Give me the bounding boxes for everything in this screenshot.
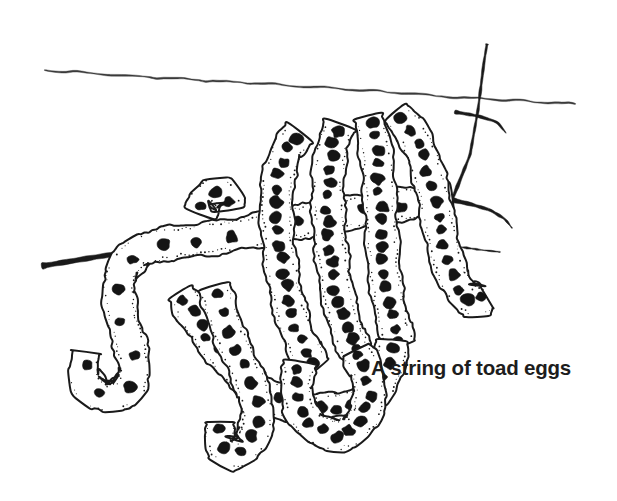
- stipple-dot: [380, 410, 381, 411]
- stipple-dot: [312, 442, 314, 444]
- stipple-dot: [276, 384, 277, 385]
- stipple-dot: [232, 433, 233, 434]
- stipple-dot: [377, 308, 379, 310]
- stipple-dot: [328, 396, 329, 397]
- stipple-dot: [227, 182, 228, 183]
- stipple-dot: [269, 420, 270, 421]
- stipple-dot: [299, 290, 301, 292]
- stipple-dot: [372, 426, 374, 428]
- toad-egg: [370, 131, 380, 139]
- stipple-dot: [353, 378, 354, 379]
- stipple-dot: [400, 280, 402, 282]
- stipple-dot: [364, 156, 365, 157]
- stipple-dot: [195, 291, 196, 292]
- stipple-dot: [216, 203, 217, 204]
- stipple-dot: [234, 439, 235, 440]
- stipple-dot: [238, 319, 239, 320]
- stipple-dot: [464, 272, 466, 274]
- stipple-dot: [189, 333, 190, 334]
- stipple-dot: [398, 276, 400, 278]
- stipple-dot: [463, 267, 464, 268]
- stipple-dot: [439, 279, 440, 280]
- stipple-dot: [346, 392, 348, 394]
- stipple-dot: [408, 157, 409, 158]
- stipple-dot: [300, 152, 302, 154]
- stipple-dot: [297, 286, 298, 287]
- toad-egg: [380, 281, 391, 292]
- stipple-dot: [343, 229, 344, 230]
- stipple-dot: [106, 386, 108, 388]
- stipple-dot: [98, 377, 100, 379]
- stipple-dot: [174, 304, 175, 305]
- stipple-dot: [312, 407, 313, 408]
- stipple-dot: [265, 385, 266, 386]
- stipple-dot: [215, 211, 217, 213]
- stipple-dot: [341, 233, 342, 234]
- stipple-dot: [359, 130, 360, 131]
- stipple-dot: [241, 327, 242, 328]
- stipple-dot: [388, 135, 389, 136]
- figure-caption: A string of toad eggs: [371, 358, 571, 379]
- stipple-dot: [190, 228, 191, 229]
- stipple-dot: [292, 263, 294, 265]
- stipple-dot: [290, 198, 291, 199]
- stipple-dot: [422, 128, 424, 130]
- stipple-dot: [334, 331, 335, 332]
- stipple-dot: [348, 139, 350, 141]
- stipple-dot: [354, 409, 356, 411]
- toad-egg: [298, 406, 309, 417]
- stipple-dot: [306, 316, 308, 318]
- stipple-dot: [137, 324, 139, 326]
- stipple-dot: [353, 309, 355, 311]
- stipple-dot: [237, 435, 238, 436]
- stipple-dot: [241, 408, 243, 410]
- stipple-dot: [215, 456, 216, 457]
- stipple-dot: [106, 271, 108, 273]
- stipple-dot: [119, 375, 120, 376]
- stipple-dot: [290, 206, 291, 207]
- stipple-dot: [262, 230, 264, 232]
- stipple-dot: [364, 183, 366, 185]
- stipple-dot: [300, 433, 301, 434]
- stipple-dot: [211, 324, 212, 325]
- stipple-dot: [316, 234, 317, 235]
- stipple-dot: [230, 184, 232, 186]
- stipple-dot: [229, 365, 231, 367]
- stipple-dot: [331, 324, 332, 325]
- stipple-dot: [270, 159, 271, 160]
- stipple-dot: [369, 263, 370, 264]
- stipple-dot: [376, 424, 377, 425]
- stipple-dot: [208, 251, 209, 252]
- stipple-dot: [283, 331, 284, 332]
- stipple-dot: [233, 428, 234, 429]
- stipple-dot: [372, 280, 374, 282]
- illustration-figure: A string of toad eggs: [0, 0, 617, 501]
- stipple-dot: [339, 186, 340, 187]
- stipple-dot: [439, 275, 440, 276]
- stipple-dot: [301, 304, 303, 306]
- stipple-dot: [248, 219, 249, 220]
- stipple-dot: [230, 439, 232, 441]
- stipple-dot: [185, 326, 187, 328]
- stipple-dot: [416, 181, 417, 182]
- stipple-dot: [371, 351, 373, 353]
- stipple-dot: [256, 244, 258, 246]
- stipple-dot: [219, 349, 220, 350]
- stipple-dot: [315, 397, 317, 399]
- stipple-dot: [395, 261, 397, 263]
- toad-egg: [115, 318, 125, 326]
- stipple-dot: [199, 185, 201, 187]
- stipple-dot: [114, 332, 115, 333]
- stipple-dot: [367, 223, 369, 225]
- stipple-dot: [397, 218, 399, 220]
- stipple-dot: [262, 196, 264, 198]
- stipple-dot: [243, 411, 244, 412]
- stipple-dot: [242, 419, 244, 421]
- stipple-dot: [360, 324, 361, 325]
- stipple-dot: [321, 134, 322, 135]
- stipple-dot: [349, 363, 350, 364]
- stipple-dot: [482, 289, 483, 290]
- stipple-dot: [339, 182, 341, 184]
- stipple-dot: [143, 263, 144, 264]
- stipple-dot: [230, 293, 231, 294]
